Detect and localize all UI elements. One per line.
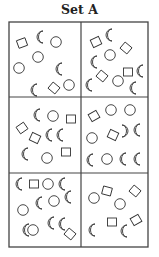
- circle-shape: [14, 63, 25, 74]
- crescent-shape: [91, 56, 97, 68]
- circle-shape: [28, 225, 39, 236]
- panel-1-3: [16, 178, 76, 240]
- square-shape: [107, 129, 119, 140]
- square-shape: [62, 148, 71, 156]
- circle-shape: [42, 153, 53, 164]
- crescent-shape: [36, 197, 42, 209]
- square-shape: [64, 228, 76, 240]
- circle-shape: [125, 105, 136, 116]
- panel-1-1: [14, 31, 75, 96]
- crescent-shape: [56, 63, 62, 75]
- square-shape: [16, 38, 27, 49]
- square-shape: [129, 185, 141, 197]
- circle-shape: [51, 37, 62, 48]
- crescent-shape: [134, 124, 140, 136]
- square-shape: [130, 214, 142, 225]
- crescent-shape: [59, 178, 65, 190]
- square-shape: [88, 110, 100, 121]
- square-shape: [96, 70, 108, 82]
- crescent-shape: [130, 82, 136, 94]
- crescent-shape: [89, 224, 95, 236]
- crescent-shape: [48, 217, 54, 229]
- circle-shape: [87, 133, 98, 144]
- panel-1-2: [16, 109, 75, 163]
- crescent-shape: [34, 109, 40, 121]
- circle-shape: [18, 205, 29, 216]
- crescent-shape: [106, 29, 112, 41]
- crescent-shape: [59, 218, 65, 230]
- circle-shape: [43, 179, 54, 190]
- square-shape: [90, 36, 102, 47]
- circle-shape: [89, 193, 100, 204]
- circle-shape: [115, 199, 126, 210]
- square-shape: [102, 186, 113, 196]
- circle-shape: [49, 196, 60, 207]
- square-shape: [108, 218, 117, 226]
- shapes-layer: [14, 29, 143, 240]
- circle-shape: [102, 154, 113, 165]
- crescent-shape: [46, 129, 52, 141]
- shape-grid-diagram: [0, 0, 159, 257]
- circle-shape: [113, 76, 124, 87]
- crescent-shape: [87, 154, 93, 166]
- square-shape: [30, 180, 39, 188]
- crescent-shape: [86, 79, 92, 91]
- square-shape: [124, 68, 133, 76]
- crescent-shape: [134, 153, 140, 165]
- square-shape: [120, 42, 132, 54]
- square-shape: [48, 82, 60, 94]
- crescent-shape: [122, 125, 128, 137]
- circle-shape: [105, 50, 116, 61]
- panel-2-3: [89, 185, 142, 237]
- crescent-shape: [65, 191, 71, 203]
- crescent-shape: [137, 65, 143, 77]
- crescent-shape: [22, 148, 28, 160]
- square-shape: [67, 115, 76, 123]
- circle-shape: [33, 52, 44, 63]
- circle-shape: [64, 80, 75, 91]
- panel-2-1: [86, 29, 143, 94]
- crescent-shape: [37, 31, 43, 43]
- square-shape: [16, 122, 28, 134]
- circle-shape: [48, 111, 59, 122]
- crescent-shape: [16, 178, 22, 190]
- circle-shape: [106, 105, 117, 116]
- crescent-shape: [121, 225, 127, 237]
- square-shape: [29, 132, 41, 143]
- crescent-shape: [120, 153, 126, 165]
- panel-2-2: [87, 105, 140, 166]
- crescent-shape: [57, 129, 63, 141]
- crescent-shape: [31, 84, 37, 96]
